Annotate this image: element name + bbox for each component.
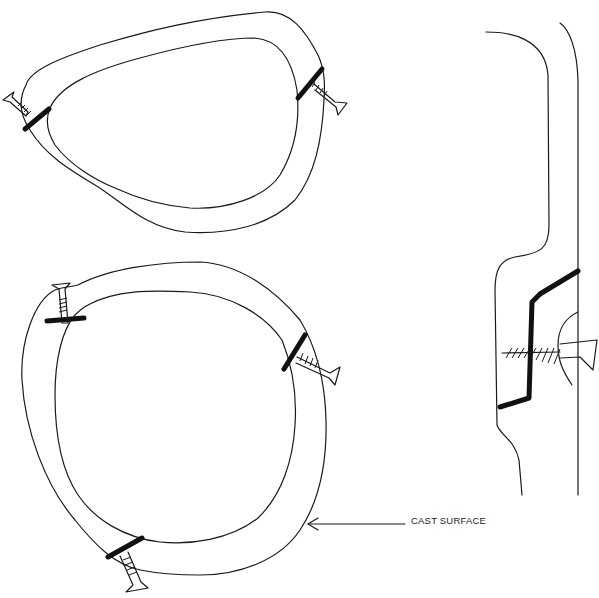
screw-fastener-right — [298, 69, 347, 115]
cast-surface-label: CAST SURFACE — [411, 515, 486, 526]
bottom-ring-outer-edge — [22, 262, 326, 575]
side-section-view — [486, 23, 597, 495]
cast-surface-leader — [308, 518, 405, 530]
top-ring-outer-edge — [21, 12, 324, 233]
patent-drawing — [0, 0, 599, 598]
screw-fastener-bottom — [108, 538, 148, 592]
screw-fastener-side — [502, 312, 597, 385]
top-ring-view — [3, 12, 347, 233]
bottom-ring-inner-edge — [55, 291, 295, 543]
top-ring-inner-edge — [47, 38, 298, 208]
side-profile-left-edge — [486, 32, 549, 495]
screw-fastener-top-left — [47, 283, 84, 323]
bottom-ring-view — [22, 262, 405, 592]
stepped-insert — [500, 271, 578, 407]
side-profile-right-edge — [560, 23, 578, 495]
